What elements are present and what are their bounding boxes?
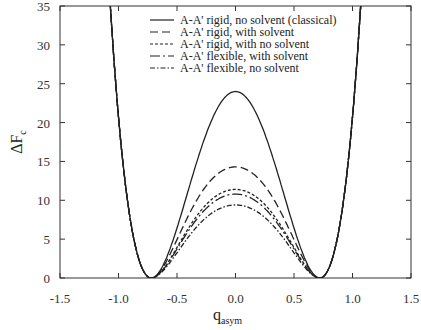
legend-label-4: A-A' flexible, no solvent (180, 61, 299, 75)
x-tick-label: -1.5 (50, 291, 71, 306)
x-tick-label: 0.0 (227, 291, 243, 306)
y-tick-label: 15 (37, 154, 50, 169)
y-tick-label: 5 (44, 232, 51, 247)
y-tick-label: 20 (37, 116, 50, 131)
y-tick-label: 25 (37, 77, 50, 92)
x-tick-label: 1.5 (403, 291, 419, 306)
x-axis-label: qasym (213, 306, 242, 326)
chart: -1.5-1.0-0.50.00.51.01.505101520253035qa… (0, 0, 421, 330)
y-tick-label: 35 (37, 0, 50, 14)
y-tick-label: 30 (37, 38, 50, 53)
x-tick-label: -1.0 (108, 291, 129, 306)
x-tick-label: 1.0 (344, 291, 360, 306)
x-tick-label: -0.5 (167, 291, 188, 306)
x-tick-label: 0.5 (286, 291, 302, 306)
y-axis-label: ΔFc (8, 130, 28, 154)
y-tick-label: 0 (44, 271, 51, 286)
y-tick-label: 10 (37, 193, 50, 208)
